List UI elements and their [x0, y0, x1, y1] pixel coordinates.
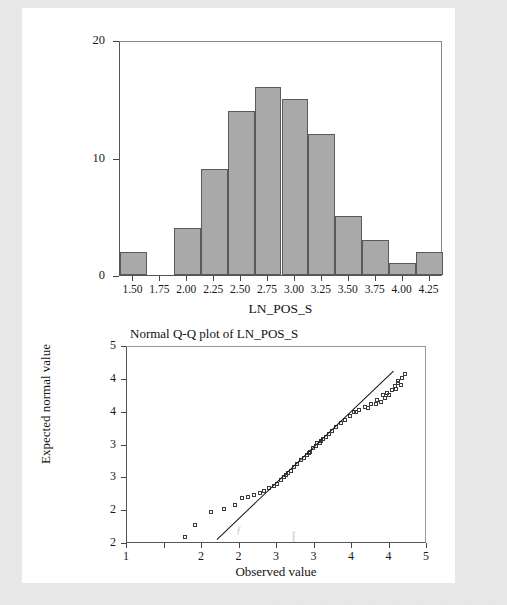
histogram-bar [228, 111, 255, 276]
qq-x-tick-label: 2 [188, 549, 214, 564]
qq-y-tick [121, 346, 126, 347]
histogram-y-tick-label: 20 [75, 33, 105, 48]
qq-x-tick [351, 543, 352, 548]
qq-x-tick [164, 543, 165, 548]
qq-point-marker [233, 503, 237, 507]
qq-point-marker [222, 507, 226, 511]
qq-point-marker [193, 523, 197, 527]
histogram-bars [120, 42, 441, 275]
scan-artifact-2: ⁅ [290, 530, 296, 543]
qq-x-tick-label: 3 [263, 549, 289, 564]
qq-y-axis-title: Expected normal value [38, 324, 54, 484]
histogram-bar [335, 216, 362, 275]
qq-x-tick [426, 543, 427, 548]
qq-x-tick [201, 543, 202, 548]
qq-point-marker [399, 383, 403, 387]
qq-x-tick-label: 4 [376, 549, 402, 564]
histogram-bar [120, 252, 147, 276]
qq-x-tick-label: 5 [413, 549, 439, 564]
histogram-y-tick-label: 0 [75, 268, 105, 283]
qq-x-tick-label: 4 [338, 549, 364, 564]
qq-x-tick-label: 2 [226, 549, 252, 564]
qq-plot-area [126, 346, 426, 543]
histogram-bar [308, 134, 335, 275]
histogram-x-tick [375, 276, 376, 281]
histogram-x-tick [429, 276, 430, 281]
qq-point-marker [366, 406, 370, 410]
qq-y-tick-label: 4 [90, 404, 116, 419]
qq-x-tick-label: 3 [301, 549, 327, 564]
qq-point-marker [246, 495, 250, 499]
qq-y-tick-label: 5 [90, 338, 116, 353]
histogram-bar [201, 169, 228, 275]
histogram-plot-area [119, 41, 442, 276]
qq-y-tick-label: 2 [90, 502, 116, 517]
qq-y-tick-label: 2 [90, 535, 116, 550]
qq-y-tick [121, 477, 126, 478]
histogram-x-tick-label: 4.25 [409, 283, 449, 295]
qq-point-marker [394, 387, 398, 391]
qq-point-marker [390, 388, 394, 392]
histogram-bar [174, 228, 201, 275]
qq-plot-title: Normal Q-Q plot of LN_POS_S [130, 326, 298, 342]
histogram-x-tick [132, 276, 133, 281]
qq-y-tick-label: 3 [90, 469, 116, 484]
qq-y-tick [121, 379, 126, 380]
qq-point-marker [387, 393, 391, 397]
qq-point-marker [252, 493, 256, 497]
scan-artifact-1: ƒ [234, 523, 242, 535]
histogram-x-tick [402, 276, 403, 281]
histogram-x-tick [321, 276, 322, 281]
histogram-bar [282, 99, 309, 275]
qq-y-tick-label: 3 [90, 437, 116, 452]
histogram-bar [389, 263, 416, 275]
histogram-y-tick [113, 159, 119, 160]
qq-plot-chart: Normal Q-Q plot of LN_POS_S 2233445 1223… [22, 318, 455, 583]
qq-point-marker [369, 402, 373, 406]
qq-y-tick-label: 4 [90, 371, 116, 386]
histogram-y-tick-label: 10 [75, 151, 105, 166]
histogram-y-tick [113, 41, 119, 42]
qq-x-tick-label: 1 [113, 549, 139, 564]
histogram-x-tick [267, 276, 268, 281]
histogram-bar [362, 240, 389, 275]
qq-point-marker [379, 400, 383, 404]
qq-x-axis-title: Observed value [126, 564, 426, 580]
histogram-x-tick [240, 276, 241, 281]
qq-point-marker [258, 491, 262, 495]
qq-reference-line [217, 371, 394, 540]
histogram-x-tick [348, 276, 349, 281]
figure-panel: 01020 1.501.752.002.252.502.753.003.253.… [22, 8, 455, 583]
histogram-y-tick [113, 276, 119, 277]
qq-y-tick [121, 412, 126, 413]
histogram-x-tick [159, 276, 160, 281]
histogram-x-tick [186, 276, 187, 281]
histogram-x-axis-title: LN_POS_S [119, 301, 442, 317]
qq-x-tick [126, 543, 127, 548]
qq-point-marker [354, 410, 358, 414]
qq-point-marker [209, 510, 213, 514]
histogram-chart: 01020 1.501.752.002.252.502.753.003.253.… [22, 8, 455, 308]
qq-point-marker [240, 496, 244, 500]
histogram-bar [255, 87, 282, 275]
qq-y-tick [121, 445, 126, 446]
qq-point-marker [374, 402, 378, 406]
qq-point-marker [403, 372, 407, 376]
qq-x-tick [276, 543, 277, 548]
qq-y-tick [121, 510, 126, 511]
qq-point-marker [400, 376, 404, 380]
qq-x-tick [314, 543, 315, 548]
histogram-x-tick [213, 276, 214, 281]
qq-point-marker [183, 535, 187, 539]
histogram-bar [416, 252, 443, 276]
qq-x-tick [389, 543, 390, 548]
qq-x-tick [239, 543, 240, 548]
histogram-x-tick [294, 276, 295, 281]
